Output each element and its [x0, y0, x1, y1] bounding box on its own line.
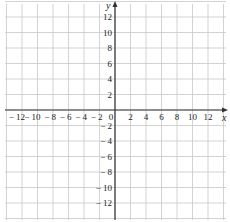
y-tick-label: − 12 — [96, 198, 112, 208]
x-axis-label: x — [221, 112, 227, 123]
x-tick-label: 2 — [128, 112, 133, 122]
y-tick-label: 12 — [103, 12, 112, 22]
x-tick-label: 8 — [175, 112, 180, 122]
coordinate-grid: − 12− 10− 8− 6− 4− 2024681012− 12− 10− 8… — [0, 0, 230, 222]
x-tick-label: 12 — [204, 112, 213, 122]
x-tick-label: − 12 — [9, 112, 25, 122]
x-tick-label: − 10 — [24, 112, 41, 122]
y-tick-label: − 10 — [96, 183, 113, 193]
y-tick-label: 2 — [108, 90, 113, 100]
x-tick-label: − 8 — [44, 112, 56, 122]
x-tick-label: 10 — [188, 112, 198, 122]
x-tick-label: 4 — [144, 112, 149, 122]
y-tick-label: − 6 — [100, 152, 112, 162]
x-tick-label: − 6 — [60, 112, 72, 122]
x-tick-label: 6 — [159, 112, 164, 122]
y-tick-label: − 2 — [100, 121, 112, 131]
y-tick-label: 4 — [108, 74, 113, 84]
y-tick-label: 10 — [103, 28, 113, 38]
y-tick-label: − 8 — [100, 167, 112, 177]
y-axis-label: y — [105, 0, 111, 11]
y-tick-label: 6 — [108, 59, 113, 69]
y-tick-label: − 4 — [100, 136, 112, 146]
x-tick-label: − 4 — [75, 112, 87, 122]
y-tick-label: 8 — [108, 43, 113, 53]
